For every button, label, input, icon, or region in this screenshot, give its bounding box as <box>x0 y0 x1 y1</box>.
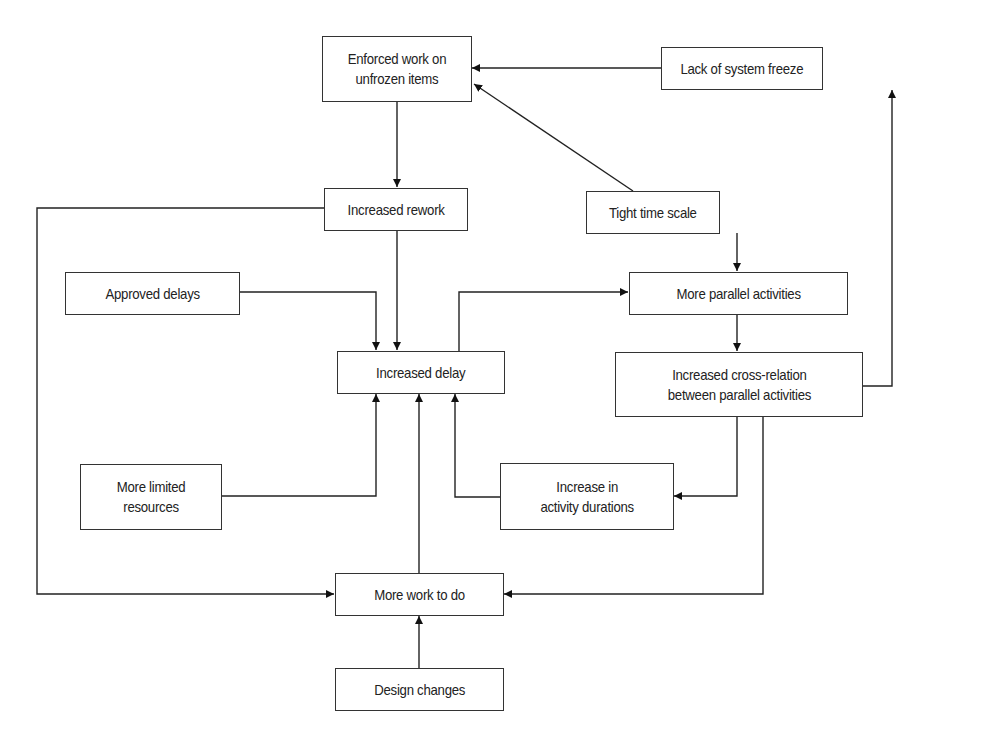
node-label: Approved delays <box>105 284 199 304</box>
node-lack-of-system-freeze: Lack of system freeze <box>661 47 823 90</box>
node-increased-cross-relation: Increased cross-relation between paralle… <box>615 352 863 417</box>
node-label: More parallel activities <box>676 284 800 304</box>
node-design-changes: Design changes <box>335 668 504 711</box>
node-label: Enforced work on unfrozen items <box>348 49 447 89</box>
node-label: Design changes <box>374 680 465 700</box>
node-increased-delay: Increased delay <box>337 351 505 394</box>
node-increase-in-activity-durations: Increase in activity durations <box>500 463 674 530</box>
node-increased-rework: Increased rework <box>324 188 468 231</box>
node-more-limited-resources: More limited resources <box>80 464 222 530</box>
node-label: Increased cross-relation between paralle… <box>667 365 810 405</box>
node-more-parallel-activities: More parallel activities <box>629 272 848 315</box>
node-label: Tight time scale <box>609 203 697 223</box>
node-label: Increase in activity durations <box>540 477 634 517</box>
node-tight-time-scale: Tight time scale <box>586 191 720 234</box>
node-enforced-work: Enforced work on unfrozen items <box>322 36 472 102</box>
node-more-work-to-do: More work to do <box>335 573 504 616</box>
node-approved-delays: Approved delays <box>65 272 240 315</box>
node-label: Increased rework <box>347 200 444 220</box>
node-label: Lack of system freeze <box>681 59 804 79</box>
node-label: More work to do <box>374 585 465 605</box>
node-label: Increased delay <box>376 363 465 383</box>
node-label: More limited resources <box>117 477 186 517</box>
